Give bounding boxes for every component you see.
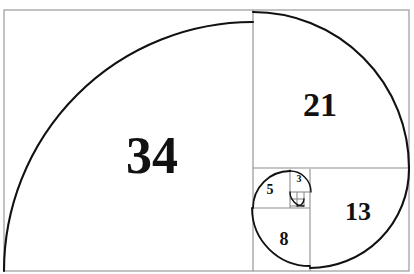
square-label-8: 8: [280, 230, 289, 248]
spiral-canvas: [0, 0, 414, 274]
fibonacci-spiral-figure: 342113853: [0, 0, 414, 274]
square-label-34: 34: [126, 130, 178, 182]
outer-frame-rect: [4, 10, 409, 271]
outer-frame-group: [4, 10, 409, 271]
square-label-13: 13: [345, 199, 371, 225]
spiral-arcs-group: [4, 12, 409, 271]
square-label-5: 5: [267, 183, 274, 197]
square-label-21: 21: [303, 88, 337, 122]
square-label-3: 3: [297, 174, 302, 184]
